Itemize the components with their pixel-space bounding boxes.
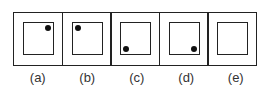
label-b: (b) (63, 70, 113, 85)
inner-square (23, 22, 54, 55)
figure-e (207, 12, 257, 66)
figure-a (13, 12, 63, 66)
inner-square (217, 22, 248, 55)
dot-icon (45, 25, 51, 31)
label-e: (e) (211, 70, 261, 85)
dot-icon (75, 25, 81, 31)
label-c: (c) (112, 70, 162, 85)
figure-d (159, 12, 209, 66)
inner-square (169, 22, 200, 55)
inner-square (120, 22, 151, 55)
figure-b (62, 12, 112, 66)
label-d: (d) (162, 70, 212, 85)
figure-labels: (a) (b) (c) (d) (e) (13, 70, 261, 85)
dot-icon (191, 46, 197, 52)
dot-icon (123, 46, 129, 52)
figure-c (110, 12, 160, 66)
figure-strip (13, 12, 257, 66)
inner-square (72, 22, 103, 55)
label-a: (a) (13, 70, 63, 85)
